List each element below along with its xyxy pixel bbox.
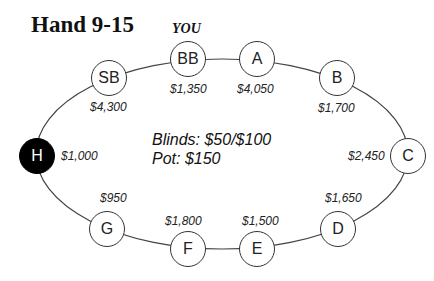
seat-f: F <box>170 231 206 267</box>
stack-f: $1,800 <box>165 214 202 228</box>
stack-a: $4,050 <box>237 82 274 96</box>
seat-b: B <box>319 60 355 96</box>
seat-h-dealer: H <box>19 138 55 174</box>
stack-c: $2,450 <box>348 149 385 163</box>
stack-h: $1,000 <box>61 149 98 163</box>
stack-bb: $1,350 <box>170 82 207 96</box>
seat-d: D <box>320 211 356 247</box>
hero-label: YOU <box>172 21 201 37</box>
seat-c: C <box>390 138 426 174</box>
seat-a: A <box>239 41 275 77</box>
seat-bb: BB <box>170 41 206 77</box>
stack-b: $1,700 <box>318 101 355 115</box>
seat-e: E <box>239 231 275 267</box>
blinds-text: Blinds: $50/$100 <box>152 130 271 149</box>
seat-g: G <box>89 211 125 247</box>
stack-sb: $4,300 <box>90 100 127 114</box>
stack-e: $1,500 <box>242 214 279 228</box>
hand-info: Blinds: $50/$100 Pot: $150 <box>152 130 271 168</box>
pot-text: Pot: $150 <box>152 149 271 168</box>
stack-g: $950 <box>100 191 127 205</box>
stack-d: $1,650 <box>325 191 362 205</box>
hand-title: Hand 9-15 <box>31 12 134 38</box>
seat-sb: SB <box>91 60 127 96</box>
